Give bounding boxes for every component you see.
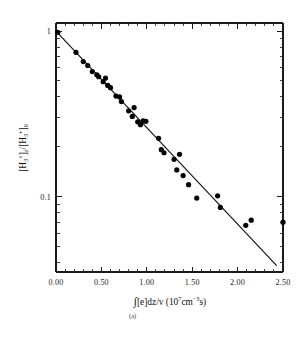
y-tick-label: 1 [47,27,51,36]
y-tick-label: 0.1 [40,193,51,202]
data-point [73,50,78,55]
data-point [131,105,136,110]
data-point [186,182,191,187]
data-point [156,136,161,141]
y-axis-label: [H3+]z/[H3+]0 [17,124,29,172]
scatter-plot: 0.000.501.001.502.002.50 10.1 [H3+]z/[H3… [0,0,301,340]
data-point-series [55,30,285,228]
plot-frame [56,23,283,272]
data-point [90,69,95,74]
data-point [280,220,285,225]
data-point [161,150,166,155]
data-point [126,108,131,113]
x-tick-label: 2.00 [230,278,245,287]
x-tick-label: 2.50 [276,278,291,287]
svg-text:∫[e]dz/v (107cm−3s): ∫[e]dz/v (107cm−3s) [133,295,206,308]
x-axis-tick-labels: 0.000.501.001.502.002.50 [49,278,291,287]
x-axis-label: ∫[e]dz/v (107cm−3s) [133,295,206,308]
data-point [171,157,176,162]
panel-caption: (a) [129,312,136,320]
data-point [194,195,199,200]
x-tick-label: 0.00 [49,278,64,287]
x-axis-ticks [56,23,283,272]
data-point [218,205,223,210]
y-axis-tick-labels: 10.1 [40,27,51,201]
data-point [108,85,113,90]
data-point [117,94,122,99]
data-point [174,167,179,172]
data-point [143,119,148,124]
data-point [177,152,182,157]
data-point [181,173,186,178]
data-point [103,76,108,81]
data-point [96,74,101,79]
figure-panel: 0.000.501.001.502.002.50 10.1 [H3+]z/[H3… [0,0,301,340]
data-point [249,218,254,223]
x-tick-label: 0.50 [94,278,109,287]
data-point [81,59,86,64]
data-point [130,114,135,119]
data-point [119,99,124,104]
data-point [55,30,60,35]
x-tick-label: 1.00 [139,278,154,287]
data-point [85,63,90,68]
data-point [215,193,220,198]
svg-text:[H3+]z/[H3+]0: [H3+]z/[H3+]0 [17,124,29,172]
data-point [243,223,248,228]
x-tick-label: 1.50 [185,278,200,287]
